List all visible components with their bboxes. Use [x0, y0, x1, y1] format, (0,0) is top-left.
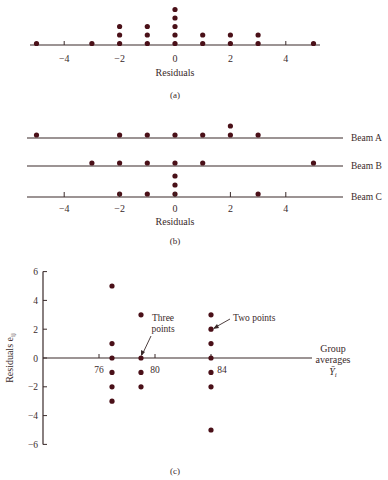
data-point	[172, 15, 177, 20]
data-point	[145, 32, 150, 37]
data-point	[256, 191, 261, 196]
data-point	[208, 312, 213, 317]
data-point	[172, 41, 177, 46]
data-point	[256, 32, 261, 37]
data-point	[208, 384, 213, 389]
data-point	[145, 41, 150, 46]
data-point	[117, 160, 122, 165]
x-axis-label: Residuals	[156, 67, 195, 78]
data-point	[228, 32, 233, 37]
tick-label: −4	[59, 203, 70, 214]
series-label: Beam A	[351, 133, 382, 143]
tick-label: 0	[173, 53, 178, 64]
x-axis-label: averages	[316, 354, 351, 365]
data-point	[311, 160, 316, 165]
data-point	[208, 341, 213, 346]
tick-label: −6	[28, 440, 38, 450]
data-point	[89, 160, 94, 165]
caption: (a)	[170, 90, 180, 100]
data-point	[228, 41, 233, 46]
tick-label: 6	[33, 267, 38, 277]
annotation: Three	[152, 313, 174, 323]
series-label: Beam C	[351, 192, 382, 202]
panel-b: Beam ABeam BBeam C−4−2024Residuals(b)	[27, 123, 382, 246]
data-point	[172, 182, 177, 187]
data-point	[117, 132, 122, 137]
tick-label: 76	[94, 365, 104, 375]
data-point	[145, 191, 150, 196]
data-point	[256, 132, 261, 137]
data-point	[200, 132, 205, 137]
data-point	[145, 160, 150, 165]
tick-label: 4	[283, 203, 288, 214]
caption: (c)	[170, 466, 180, 476]
data-point	[172, 32, 177, 37]
series-label: Beam B	[351, 161, 382, 171]
tick-label: 4	[283, 53, 288, 64]
data-point	[109, 384, 114, 389]
data-point	[109, 370, 114, 375]
data-point	[172, 132, 177, 137]
figure: −4−2024Residuals(a)Beam ABeam BBeam C−4−…	[0, 0, 388, 480]
tick-label: −2	[114, 53, 125, 64]
data-point	[172, 173, 177, 178]
panel-a: −4−2024Residuals(a)	[30, 7, 320, 100]
data-point	[117, 32, 122, 37]
data-point	[109, 355, 114, 360]
annotation: points	[151, 324, 175, 334]
data-point	[145, 24, 150, 29]
data-point	[208, 370, 213, 375]
data-point	[109, 341, 114, 346]
data-point	[109, 399, 114, 404]
panel-c: 6420−2−4−6768084Residuals eijGroupaverag…	[4, 267, 351, 476]
tick-label: −4	[28, 411, 38, 421]
tick-label: 0	[173, 203, 178, 214]
data-point	[311, 41, 316, 46]
tick-label: 2	[228, 53, 233, 64]
data-point	[117, 41, 122, 46]
data-point	[172, 7, 177, 12]
tick-label: 0	[33, 354, 38, 364]
data-point	[172, 160, 177, 165]
data-point	[228, 123, 233, 128]
tick-label: −2	[28, 382, 38, 392]
data-point	[200, 41, 205, 46]
data-point	[34, 132, 39, 137]
data-point	[109, 283, 114, 288]
data-point	[200, 32, 205, 37]
tick-label: −2	[114, 203, 125, 214]
x-axis-label: Ȳi	[329, 366, 337, 379]
annotation: Two points	[233, 313, 276, 323]
caption: (b)	[170, 236, 181, 246]
data-point	[200, 160, 205, 165]
tick-label: 4	[33, 296, 38, 306]
data-point	[256, 41, 261, 46]
tick-label: 2	[228, 203, 233, 214]
data-point	[208, 427, 213, 432]
x-axis-label: Residuals	[156, 216, 195, 227]
data-point	[138, 312, 143, 317]
data-point	[89, 41, 94, 46]
data-point	[208, 327, 213, 332]
data-point	[138, 355, 143, 360]
data-point	[228, 132, 233, 137]
data-point	[145, 132, 150, 137]
data-point	[34, 41, 39, 46]
tick-label: 80	[150, 365, 160, 375]
tick-label: 84	[217, 365, 227, 375]
data-point	[138, 370, 143, 375]
tick-label: 2	[33, 325, 38, 335]
data-point	[208, 355, 213, 360]
y-axis-label: Residuals eij	[4, 333, 17, 383]
data-point	[172, 24, 177, 29]
x-axis-label: Group	[320, 343, 346, 354]
data-point	[138, 384, 143, 389]
data-point	[117, 24, 122, 29]
tick-label: −4	[59, 53, 70, 64]
